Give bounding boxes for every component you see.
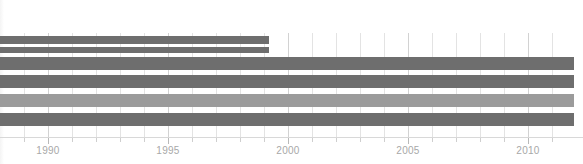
- tick-1995: [168, 138, 169, 144]
- tick-2011: [552, 138, 553, 142]
- bar-row-6[interactable]: [0, 113, 574, 126]
- tick-2006: [432, 138, 433, 142]
- tick-2003: [360, 138, 361, 142]
- timeline-bar-chart: 19901995200020052010: [0, 0, 583, 164]
- tick-2010: [528, 138, 529, 144]
- tick-1999: [264, 138, 265, 142]
- plot-area: [0, 0, 583, 138]
- tick-1990: [48, 138, 49, 144]
- tick-2009: [504, 138, 505, 142]
- bar-row-5[interactable]: [0, 94, 574, 107]
- tick-1992: [96, 138, 97, 142]
- tick-label-2005: 2005: [396, 145, 419, 156]
- tick-2005: [408, 138, 409, 144]
- tick-1994: [144, 138, 145, 142]
- tick-1998: [240, 138, 241, 142]
- tick-1993: [120, 138, 121, 142]
- tick-1991: [72, 138, 73, 142]
- tick-2007: [456, 138, 457, 142]
- tick-label-2010: 2010: [516, 145, 539, 156]
- x-axis-line: [0, 137, 583, 138]
- bar-row-2[interactable]: [0, 47, 269, 53]
- tick-label-1990: 1990: [36, 145, 59, 156]
- bar-row-1[interactable]: [0, 36, 269, 44]
- tick-2004: [384, 138, 385, 142]
- tick-1989: [24, 138, 25, 142]
- tick-2000: [288, 138, 289, 144]
- tick-1997: [216, 138, 217, 142]
- bar-row-3[interactable]: [0, 57, 574, 70]
- tick-label-2000: 2000: [276, 145, 299, 156]
- tick-1996: [192, 138, 193, 142]
- bar-row-4[interactable]: [0, 75, 574, 88]
- tick-2008: [480, 138, 481, 142]
- tick-2001: [312, 138, 313, 142]
- tick-label-1995: 1995: [156, 145, 179, 156]
- tick-2002: [336, 138, 337, 142]
